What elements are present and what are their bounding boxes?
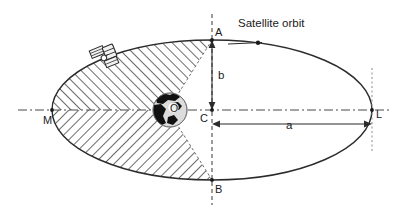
hatched-region-upper [52,40,212,110]
hatched-region-lower [52,110,212,180]
satellite-orbit-diagram: Satellite orbit A B C M L O b a [0,0,404,218]
marker-point-A [210,38,214,42]
label-point-L: L [376,108,382,120]
marker-point-B [210,178,214,182]
orbit-diagram-svg: Satellite orbit A B C M L O b a [0,0,404,218]
label-dimension-b: b [218,69,224,81]
marker-point-C [210,108,214,112]
label-point-A: A [215,26,223,38]
dimension-b-arrow [209,40,216,110]
label-satellite-orbit: Satellite orbit [238,17,305,29]
marker-point-L [370,108,374,112]
label-dimension-a: a [286,119,293,131]
label-point-O: O [170,102,178,114]
orbit-direction-dot [256,41,260,45]
marker-point-M [50,108,54,112]
label-point-B: B [215,183,222,195]
label-point-C: C [200,112,208,124]
label-point-M: M [43,114,52,126]
